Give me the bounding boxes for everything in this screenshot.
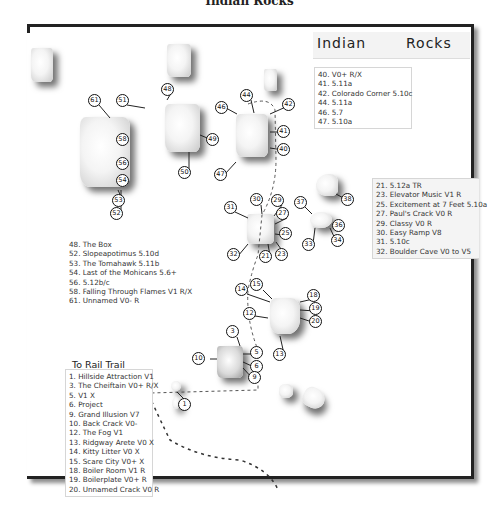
legend-entry: 18. Boiler Room V1 R	[69, 466, 149, 475]
legend-entry: 5. V1 X	[69, 391, 149, 400]
legend-entry: 29. Classy V0 R	[376, 219, 476, 228]
route-marker-37: 37	[294, 196, 307, 209]
route-marker-18: 18	[307, 289, 320, 302]
route-marker-53: 53	[112, 194, 125, 207]
legend-entry: 3. The Cheiftain V0+ R/X	[69, 381, 149, 390]
route-marker-20: 20	[309, 315, 322, 328]
legend-entry: 48. The Box	[69, 240, 192, 249]
legend-entry: 61. Unnamed V0- R	[69, 296, 192, 305]
route-marker-3: 3	[226, 325, 239, 338]
route-marker-38: 38	[341, 193, 354, 206]
route-marker-50: 50	[178, 166, 191, 179]
route-marker-5: 5	[250, 346, 263, 359]
route-marker-49: 49	[206, 133, 219, 146]
legend-entry: 9. Grand Illusion V7	[69, 410, 149, 419]
route-marker-52: 52	[110, 207, 123, 220]
route-marker-58: 58	[116, 133, 129, 146]
route-marker-14: 14	[235, 283, 248, 296]
route-marker-47: 47	[214, 168, 227, 181]
legend-entry: 21. 5.12a TR	[376, 181, 476, 190]
route-marker-19: 19	[309, 302, 322, 315]
legend-entry: 27. Paul's Crack V0 R	[376, 209, 476, 218]
legend-entry: 40. V0+ R/X	[318, 70, 408, 79]
route-marker-12: 12	[243, 307, 256, 320]
route-marker-42: 42	[282, 98, 295, 111]
route-marker-23: 23	[275, 248, 288, 261]
route-marker-44: 44	[240, 89, 253, 102]
route-marker-29: 29	[271, 194, 284, 207]
legend-entry: 14. Kitty Litter V0 X	[69, 447, 149, 456]
route-marker-40: 40	[277, 143, 290, 156]
legend-entry: 30. Easy Ramp V8	[376, 228, 476, 237]
legend-entry: 6. Project	[69, 400, 149, 409]
legend-entry: 12. The Fog V1	[69, 428, 149, 437]
legend-entry: 10. Back Crack V0-	[69, 419, 149, 428]
legend-entry: 20. Unnamed Crack V0 R	[69, 485, 149, 494]
route-marker-13: 13	[273, 348, 286, 361]
legend-entry: 46. 5.7	[318, 108, 408, 117]
legend-entry: 32. Boulder Cave V0 to V5	[376, 247, 476, 256]
legend-entry: 25. Excitement at 7 Feet 5.10a	[376, 200, 476, 209]
legend-entry: 54. Last of the Mohicans 5.6+	[69, 268, 192, 277]
route-marker-41: 41	[277, 125, 290, 138]
route-marker-36: 36	[332, 219, 345, 232]
legend-entry: 53. The Tomahawk 5.11b	[69, 259, 192, 268]
legend-entry: 19. Boilerplate V0+ R	[69, 475, 149, 484]
route-marker-46: 46	[215, 101, 228, 114]
legend-middle-right: 21. 5.12a TR 23. Elevator Music V1 R 25.…	[372, 178, 479, 259]
route-marker-31: 31	[224, 201, 237, 214]
route-marker-32: 32	[227, 248, 240, 261]
legend-entry: 23. Elevator Music V1 R	[376, 190, 476, 199]
route-marker-34: 34	[331, 234, 344, 247]
route-marker-30: 30	[250, 193, 263, 206]
legend-entry: 42. Colorado Corner 5.10c	[318, 89, 408, 98]
legend-entry: 41. 5.11a	[318, 79, 408, 88]
legend-top-right: 40. V0+ R/X 41. 5.11a 42. Colorado Corne…	[314, 67, 412, 129]
route-marker-61: 61	[88, 94, 101, 107]
legend-entry: 58. Falling Through Flames V1 R/X	[69, 287, 192, 296]
route-marker-51: 51	[116, 94, 129, 107]
legend-entry: 15. Scare City V0+ X	[69, 457, 149, 466]
route-marker-15: 15	[250, 278, 263, 291]
legend-entry: 44. 5.11a	[318, 98, 408, 107]
route-marker-1: 1	[178, 398, 191, 411]
route-marker-54: 54	[116, 174, 129, 187]
legend-middle-left: 48. The Box 52. Slopeapotimus 5.10d 53. …	[66, 238, 195, 308]
route-marker-9: 9	[248, 371, 261, 384]
legend-entry: 52. Slopeapotimus 5.10d	[69, 249, 192, 258]
legend-entry: 31. 5.10c	[376, 237, 476, 246]
route-marker-27: 27	[276, 207, 289, 220]
legend-entry: 1. Hillside Attraction V1	[69, 372, 149, 381]
route-marker-21: 21	[259, 250, 272, 263]
route-marker-48: 48	[161, 83, 174, 96]
legend-bottom-left: 1. Hillside Attraction V1 3. The Cheifta…	[65, 369, 153, 497]
route-marker-10: 10	[192, 352, 205, 365]
legend-entry: 47. 5.10a	[318, 117, 408, 126]
route-marker-25: 25	[279, 227, 292, 240]
route-marker-33: 33	[302, 238, 315, 251]
route-marker-56: 56	[116, 157, 129, 170]
legend-entry: 56. 5.12b/c	[69, 278, 192, 287]
legend-entry: 13. Ridgway Arete V0 X	[69, 438, 149, 447]
